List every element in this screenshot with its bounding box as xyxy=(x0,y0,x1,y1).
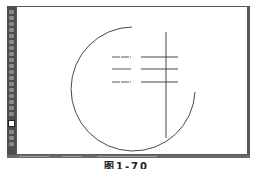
pen-tool-icon[interactable] xyxy=(9,34,14,38)
lasso-tool-icon[interactable] xyxy=(9,28,14,32)
status-bar xyxy=(7,155,250,158)
eraser-tool-icon[interactable] xyxy=(9,70,14,74)
selection-tool-icon[interactable] xyxy=(9,10,14,14)
free-transform-tool-icon[interactable] xyxy=(9,94,14,98)
artboard-canvas[interactable] xyxy=(17,7,247,154)
status-info xyxy=(97,156,157,157)
illustrator-window xyxy=(7,6,250,158)
direct-selection-tool-icon[interactable] xyxy=(9,16,14,20)
fill-color-swatch[interactable] xyxy=(8,120,15,127)
eyedropper-tool-icon[interactable] xyxy=(9,112,14,116)
fill-stroke-swatch[interactable] xyxy=(8,120,15,127)
artwork xyxy=(17,7,247,154)
gradient-tool-icon[interactable] xyxy=(9,106,14,110)
circle-arc-stroke[interactable] xyxy=(71,27,195,151)
warp-tool-icon[interactable] xyxy=(9,88,14,92)
shape-builder-tool-icon[interactable] xyxy=(9,100,14,104)
type-tool-icon[interactable] xyxy=(9,40,14,44)
line-segment-tool-icon[interactable] xyxy=(9,46,14,50)
artboard-navigation[interactable] xyxy=(62,156,82,157)
paintbrush-tool-icon[interactable] xyxy=(9,58,14,62)
drawing-mode-icon[interactable] xyxy=(9,136,14,140)
rectangle-tool-icon[interactable] xyxy=(9,52,14,56)
screen-mode-icon[interactable] xyxy=(9,142,14,146)
color-mode-icon[interactable] xyxy=(9,130,14,134)
figure-caption: 图1-70 xyxy=(0,161,253,169)
tools-panel xyxy=(7,6,16,155)
magic-wand-tool-icon[interactable] xyxy=(9,22,14,26)
pencil-tool-icon[interactable] xyxy=(9,64,14,68)
rotate-tool-icon[interactable] xyxy=(9,76,14,80)
zoom-level-field[interactable] xyxy=(19,156,49,157)
scale-tool-icon[interactable] xyxy=(9,82,14,86)
